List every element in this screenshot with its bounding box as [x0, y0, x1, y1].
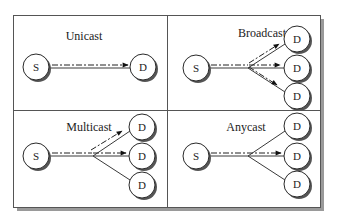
node-label: D	[293, 178, 301, 190]
node-label: S	[193, 150, 199, 162]
node-label: S	[193, 62, 199, 74]
node-label: D	[293, 62, 301, 74]
node-label: D	[293, 90, 301, 102]
node-label: D	[293, 150, 301, 162]
panel-title: Multicast	[66, 120, 112, 134]
node-label: D	[139, 61, 147, 73]
delivery-modes-diagram: Unicast S D Broadcast S	[0, 0, 337, 222]
panel-title: Broadcast	[238, 26, 287, 40]
node-label: D	[138, 121, 146, 133]
node-label: D	[293, 33, 301, 45]
panel-title: Unicast	[66, 29, 103, 43]
node-label: S	[33, 150, 39, 162]
node-label: D	[138, 179, 146, 191]
node-label: D	[138, 150, 146, 162]
node-label: S	[33, 61, 39, 73]
node-label: D	[293, 120, 301, 132]
panel-title: Anycast	[226, 120, 266, 134]
